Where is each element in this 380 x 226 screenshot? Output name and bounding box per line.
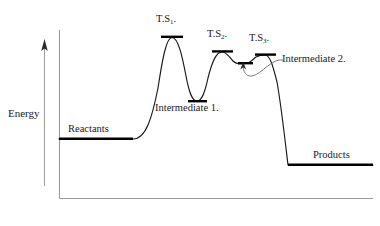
energy-diagram-figure: Energy Reactants Products T.S1. T.S2. T.… — [0, 0, 380, 226]
y-axis-title: Energy — [8, 108, 40, 119]
intermediate2-label: Intermediate 2. — [282, 54, 346, 65]
products-label: Products — [313, 150, 350, 161]
ts2-label-subscript: 2 — [221, 33, 224, 40]
ts1-label-main: T.S — [156, 13, 170, 24]
ts1-label: T.S1. — [156, 14, 176, 25]
energy-axis-arrow — [41, 39, 48, 186]
ts1-label-subscript: 1 — [170, 18, 173, 25]
ts3-label-subscript: 3 — [263, 37, 266, 44]
ts3-label-main: T.S — [249, 32, 263, 43]
intermediate1-label: Intermediate 1. — [155, 103, 219, 114]
reactants-label: Reactants — [68, 124, 109, 135]
ts2-label: T.S2. — [207, 29, 227, 40]
ts2-label-main: T.S — [207, 28, 221, 39]
ts3-label: T.S3. — [249, 33, 269, 44]
